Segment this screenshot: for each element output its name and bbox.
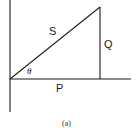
triangle-diagram: S Q P θ (a) [0, 0, 136, 136]
opposite-label: Q [104, 38, 113, 50]
hypotenuse-label: S [49, 25, 56, 37]
hypotenuse-line [10, 7, 100, 79]
adjacent-label: P [56, 82, 63, 94]
figure-caption: (a) [62, 119, 71, 128]
angle-label: θ [27, 66, 32, 76]
